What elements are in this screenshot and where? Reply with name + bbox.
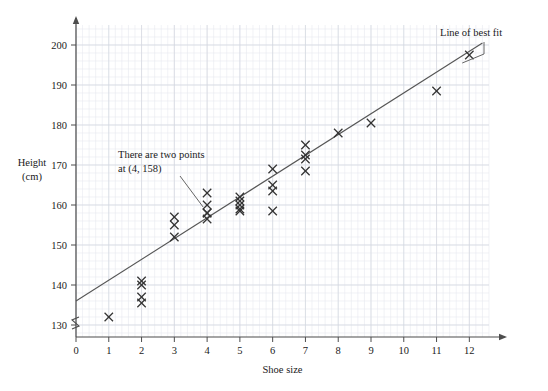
x-tick-label: 12 [464, 345, 475, 356]
chart-canvas: 0123456789101112 13014015016017018019020… [0, 0, 548, 391]
y-tick-label: 130 [51, 320, 67, 331]
x-tick-label: 0 [73, 345, 78, 356]
line-of-best-fit-note: Line of best fit [440, 27, 502, 38]
x-axis-label: Shoe size [263, 364, 303, 375]
y-tick-label: 150 [51, 240, 67, 251]
x-tick-label: 11 [431, 345, 441, 356]
scatter-chart: 0123456789101112 13014015016017018019020… [0, 0, 548, 391]
grid-minor-lines [76, 25, 489, 337]
two-points-note-line2: at (4, 158) [118, 163, 162, 175]
y-tick-label: 200 [51, 40, 67, 51]
y-tick-label: 180 [51, 120, 67, 131]
x-tick-label: 7 [303, 345, 308, 356]
x-tick-label: 10 [399, 345, 410, 356]
x-tick-label: 5 [237, 345, 242, 356]
x-tick-label: 3 [172, 345, 177, 356]
data-point-markers [105, 51, 474, 321]
x-tick-label: 4 [204, 345, 210, 356]
x-tick-label: 9 [368, 345, 373, 356]
y-tick-label: 190 [51, 80, 67, 91]
axis-lines [72, 16, 507, 340]
x-tick-label: 6 [270, 345, 275, 356]
x-tick-label: 2 [139, 345, 144, 356]
x-axis-tick-labels: 0123456789101112 [73, 345, 474, 356]
y-axis-label-line2: (cm) [22, 171, 42, 183]
x-tick-label: 1 [106, 345, 111, 356]
y-axis-tick-labels: 130140150160170180190200 [51, 40, 67, 331]
y-tick-label: 140 [51, 280, 67, 291]
annotation-leader-lines [180, 42, 484, 207]
y-tick-label: 160 [51, 200, 67, 211]
x-tick-label: 8 [336, 345, 341, 356]
two-points-note-line1: There are two points [118, 149, 205, 160]
y-tick-label: 170 [51, 160, 67, 171]
y-axis-label-line1: Height [18, 157, 47, 168]
